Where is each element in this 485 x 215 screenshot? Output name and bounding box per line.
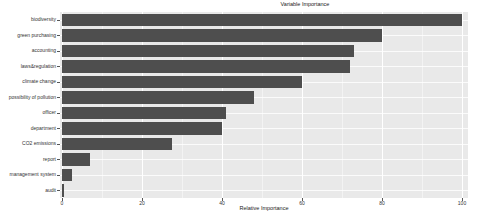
y-tick-green-purchasing — [57, 35, 60, 36]
gridline-row-audit — [60, 190, 468, 191]
y-tick-management-system — [57, 175, 60, 176]
gridline-minor-90 — [422, 12, 423, 198]
bar-climate-change — [62, 76, 302, 89]
y-label-possibility-of-pollution: possibility of pollution — [0, 94, 56, 101]
bar-management-system — [62, 169, 72, 182]
y-tick-report — [57, 159, 60, 160]
y-label-audit: audit — [0, 187, 56, 194]
plot-panel — [60, 12, 468, 198]
y-label-co2-emissions: CO2 emissions — [0, 140, 56, 147]
bar-audit — [62, 184, 64, 197]
gridline-major-100 — [462, 12, 463, 198]
y-label-department: department — [0, 125, 56, 132]
y-label-laws-regulation: laws&regulation — [0, 63, 56, 70]
variable-importance-figure: Variable Importance biodiversitygreen pu… — [0, 0, 485, 215]
bar-laws-regulation — [62, 60, 350, 73]
y-tick-audit — [57, 190, 60, 191]
bar-accounting — [62, 45, 354, 58]
x-axis-label: Relative Importance — [60, 205, 468, 211]
bar-possibility-of-pollution — [62, 91, 254, 104]
y-label-report: report — [0, 156, 56, 163]
y-tick-department — [57, 128, 60, 129]
y-tick-biodiversity — [57, 20, 60, 21]
gridline-row-management-system — [60, 175, 468, 176]
y-label-officer: officer — [0, 109, 56, 116]
y-label-biodiversity: biodiversity — [0, 16, 56, 23]
gridline-row-report — [60, 159, 468, 160]
y-tick-possibility-of-pollution — [57, 97, 60, 98]
chart-title: Variable Importance — [180, 1, 430, 7]
bar-report — [62, 153, 90, 166]
bar-department — [62, 122, 222, 135]
y-label-climate-change: climate change — [0, 78, 56, 85]
y-label-accounting: accounting — [0, 47, 56, 54]
y-label-green-purchasing: green purchasing — [0, 32, 56, 39]
bar-biodiversity — [62, 14, 462, 27]
y-tick-co2-emissions — [57, 144, 60, 145]
bar-green-purchasing — [62, 29, 382, 42]
y-tick-officer — [57, 113, 60, 114]
y-tick-climate-change — [57, 82, 60, 83]
gridline-major-80 — [382, 12, 383, 198]
y-tick-accounting — [57, 51, 60, 52]
y-tick-laws-regulation — [57, 66, 60, 67]
y-label-management-system: management system — [0, 171, 56, 178]
bar-co2-emissions — [62, 138, 172, 151]
bar-officer — [62, 107, 226, 120]
